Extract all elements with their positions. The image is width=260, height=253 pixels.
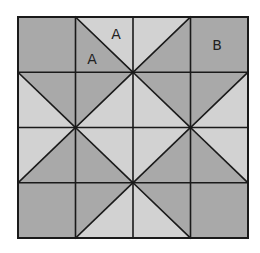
solid-square (191, 183, 249, 238)
solid-square (18, 183, 76, 238)
label-a-upper: A (111, 26, 121, 42)
quilt-diagram: A A B (0, 0, 260, 253)
label-a-lower: A (87, 51, 97, 67)
label-b: B (212, 37, 222, 53)
solid-square (18, 17, 76, 72)
